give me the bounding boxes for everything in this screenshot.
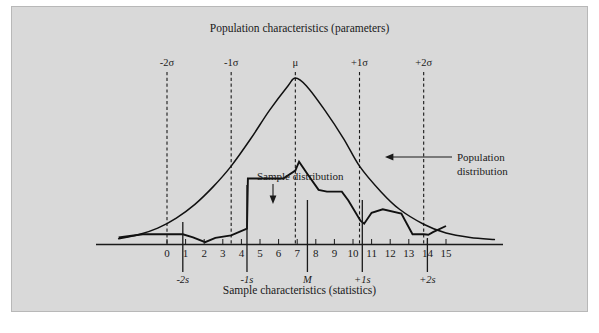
x-tick-label-6: 6 [276,247,282,259]
statistics-chart: Population characteristics (parameters) … [0,0,599,333]
x-tick-label-9: 9 [332,247,338,259]
x-tick-label-13: 13 [403,247,415,259]
x-tick-label-15: 15 [441,247,453,259]
population-annotation-arrow-head [385,154,393,161]
stat-label-minus-2-s: -2s [176,274,189,285]
top-caption: Population characteristics (parameters) [210,22,390,35]
x-tick-label-14: 14 [422,247,434,259]
x-tick-label-5: 5 [257,247,263,259]
param-label-minus-2-sigma: -2σ [160,57,175,68]
sample-annotation-arrow-head [270,196,277,204]
parameter-marker-labels: -2σ-1σμ+1σ+2σ [160,57,433,68]
figure-container: Population characteristics (parameters) … [0,0,599,333]
x-axis-tick-labels: 0123456789101112131415 [164,247,452,259]
param-label-plus-2-sigma: +2σ [415,57,432,68]
x-tick-label-10: 10 [348,247,360,259]
population-distribution-label-line1: Population [457,151,505,163]
x-tick-label-8: 8 [313,247,319,259]
x-tick-label-0: 0 [164,247,170,259]
bottom-caption: Sample characteristics (statistics) [223,284,376,297]
x-tick-label-12: 12 [385,247,396,259]
sample-distribution-label: Sample distribution [257,170,344,182]
x-tick-label-2: 2 [201,247,207,259]
stat-label-plus-2-s: +2s [419,274,435,285]
param-label-plus-1-sigma: +1σ [351,57,368,68]
x-tick-label-7: 7 [294,247,300,259]
sample-distribution-annotation: Sample distribution [257,170,344,204]
population-distribution-annotation: Population distribution [385,151,508,177]
population-distribution-label-line2: distribution [457,165,508,177]
param-label-minus-1-sigma: -1σ [224,57,239,68]
x-tick-label-1: 1 [183,247,189,259]
x-tick-label-4: 4 [239,247,245,259]
param-label-mu: μ [293,57,299,68]
x-tick-label-11: 11 [366,247,377,259]
x-tick-label-3: 3 [220,247,226,259]
population-distribution-curve [119,78,495,240]
parameter-marker-lines [167,72,424,245]
